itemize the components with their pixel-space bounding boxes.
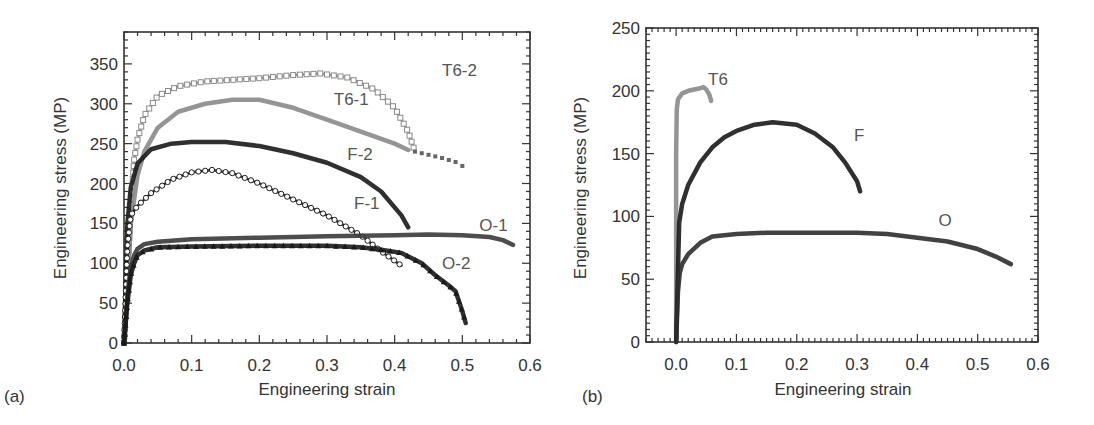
series-t6-1: T6-1 (124, 90, 408, 343)
x-tick-label: 0.1 (180, 356, 204, 375)
x-tick-label: 0.2 (248, 356, 272, 375)
y-tick-label: 0 (631, 333, 640, 352)
y-tick-label: 150 (90, 214, 118, 233)
y-axis: 050100150200250300350 (90, 32, 530, 353)
series-label: O (938, 211, 951, 230)
x-axis: 0.00.10.20.30.40.50.6 (112, 32, 542, 375)
figure: 0.00.10.20.30.40.50.60501001502002503003… (0, 0, 1094, 425)
panel-a-y-axis-title: Engineering stress (MP) (51, 97, 70, 279)
y-tick-label: 350 (90, 55, 118, 74)
series-label: F-2 (347, 145, 373, 164)
y-tick-label: 250 (90, 135, 118, 154)
x-tick-label: 0.5 (451, 356, 475, 375)
panel-b-label: (b) (582, 387, 603, 406)
x-tick-label: 0.0 (664, 355, 688, 374)
x-tick-label: 0.6 (518, 356, 542, 375)
series-o-2: O-2 (121, 243, 470, 346)
series-f-1: F-1 (121, 167, 402, 345)
x-tick-label: 0.0 (112, 356, 136, 375)
series-label: T6 (708, 70, 728, 89)
x-axis: 0.00.10.20.30.40.50.6 (646, 28, 1050, 374)
series-label: O-2 (442, 254, 470, 273)
x-tick-label: 0.4 (383, 356, 407, 375)
y-tick-label: 50 (621, 270, 640, 289)
y-tick-label: 0 (109, 334, 118, 353)
plot-frame (646, 28, 1038, 342)
x-tick-label: 0.4 (906, 355, 930, 374)
series-label: T6-1 (334, 90, 369, 109)
x-tick-label: 0.3 (845, 355, 869, 374)
panel-a-label: (a) (4, 387, 25, 406)
series-label: T6-2 (442, 61, 477, 80)
panel-a-x-axis-title: Engineering strain (258, 380, 395, 399)
y-tick-label: 300 (90, 95, 118, 114)
series-o: O (676, 211, 1011, 342)
chart-panel-a: 0.00.10.20.30.40.50.60501001502002503003… (90, 32, 542, 375)
series-t6-2-tail (413, 150, 464, 168)
y-tick-label: 200 (90, 175, 118, 194)
x-tick-label: 0.3 (315, 356, 339, 375)
x-tick-label: 0.5 (966, 355, 990, 374)
panel-b-y-axis-title: Engineering stress (MP) (571, 97, 590, 279)
panel-b-x-axis-title: Engineering strain (774, 380, 911, 399)
chart-panel-b: 0.00.10.20.30.40.50.6050100150200250T6FO (612, 19, 1050, 374)
y-tick-label: 100 (90, 254, 118, 273)
x-tick-label: 0.2 (785, 355, 809, 374)
series-label: O-1 (479, 216, 507, 235)
y-tick-label: 50 (99, 294, 118, 313)
y-tick-label: 200 (612, 82, 640, 101)
y-tick-label: 250 (612, 19, 640, 38)
series-o-1: O-1 (124, 216, 513, 343)
x-tick-label: 0.6 (1026, 355, 1050, 374)
x-tick-label: 0.1 (725, 355, 749, 374)
y-tick-label: 100 (612, 207, 640, 226)
series-label: F-1 (354, 194, 380, 213)
y-tick-label: 150 (612, 145, 640, 164)
series-label: F (854, 126, 864, 145)
